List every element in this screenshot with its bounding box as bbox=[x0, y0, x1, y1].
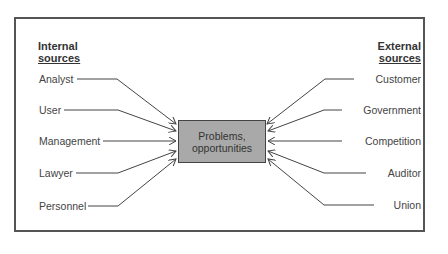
source-auditor: Auditor bbox=[388, 167, 421, 179]
arrow-personnel bbox=[88, 159, 176, 206]
arrow-lawyer bbox=[76, 151, 176, 173]
arrow-customer bbox=[267, 79, 354, 124]
arrow-auditor bbox=[268, 151, 366, 173]
arrow-analyst bbox=[77, 79, 176, 124]
external-sources-heading: External sources bbox=[378, 40, 421, 64]
source-competition: Competition bbox=[365, 135, 421, 147]
arrow-government bbox=[268, 110, 342, 131]
heading-line: Internal bbox=[38, 40, 80, 52]
source-union: Union bbox=[394, 199, 421, 211]
source-government: Government bbox=[363, 104, 421, 116]
source-customer: Customer bbox=[375, 73, 421, 85]
source-analyst: Analyst bbox=[39, 73, 73, 85]
center-line-2: opportunities bbox=[192, 142, 252, 154]
arrow-union bbox=[268, 159, 374, 205]
source-management: Management bbox=[39, 135, 100, 147]
source-lawyer: Lawyer bbox=[39, 167, 73, 179]
heading-line: sources bbox=[378, 52, 421, 64]
arrow-user bbox=[64, 110, 176, 131]
problems-opportunities-box: Problems, opportunities bbox=[178, 120, 266, 163]
center-line-1: Problems, bbox=[192, 130, 252, 142]
internal-sources-heading: Internal sources bbox=[38, 40, 80, 64]
source-personnel: Personnel bbox=[39, 200, 86, 212]
heading-line: sources bbox=[38, 52, 80, 64]
heading-line: External bbox=[378, 40, 421, 52]
source-user: User bbox=[39, 104, 61, 116]
